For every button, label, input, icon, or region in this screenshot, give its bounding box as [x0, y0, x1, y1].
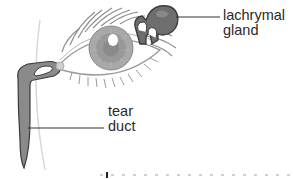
tear-punctum: [56, 62, 64, 70]
lachrymal-gland-label: lachrymal gland: [223, 8, 285, 38]
pupil-highlight: [108, 34, 118, 46]
tear-duct: [18, 62, 64, 169]
lachrymal-gland-label-line1: lachrymal: [223, 8, 285, 23]
tear-duct-label-line1: tear: [108, 104, 135, 119]
tear-duct-label: tear duct: [108, 104, 135, 134]
caption-text-fragment: [100, 174, 290, 176]
tear-duct-label-line2: duct: [108, 119, 135, 134]
lachrymal-gland: [135, 6, 178, 44]
lachrymal-gland-label-line2: gland: [223, 23, 285, 38]
face-outline: [36, 20, 45, 170]
cropped-caption: [100, 172, 290, 179]
